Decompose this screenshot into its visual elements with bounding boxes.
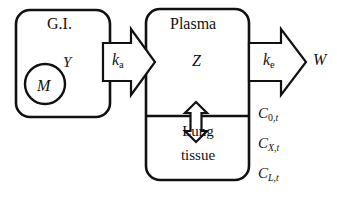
concentration-label-clt: CL,t: [258, 166, 279, 183]
gi-drug-amount-label: M: [37, 78, 50, 94]
lung-tissue-label-line1: Lung: [168, 124, 228, 139]
diagram-canvas: G.I. M Y ka Plasma Z ke W Lung tissue C0…: [0, 0, 337, 198]
c0t-base: C: [258, 105, 268, 121]
cxt-base: C: [258, 135, 268, 151]
concentration-label-c0t: C0,t: [258, 106, 278, 123]
gi-compartment-label: G.I.: [47, 16, 72, 32]
concentration-label-cxt: CX,t: [258, 136, 279, 153]
cxt-sub-second: t: [277, 142, 280, 153]
plasma-amount-label: Z: [192, 53, 201, 69]
plasma-compartment-label: Plasma: [170, 16, 216, 32]
clt-sub-second: t: [276, 172, 279, 183]
c0t-sub-second: t: [275, 112, 278, 123]
absorption-rate-constant-label: ka: [112, 52, 124, 71]
clt-base: C: [258, 165, 268, 181]
absorption-rate-subscript: a: [119, 59, 124, 70]
elimination-rate-subscript: e: [270, 59, 275, 70]
eliminated-amount-label: W: [313, 52, 326, 68]
elimination-rate-constant-label: ke: [263, 52, 275, 71]
elimination-arrow-shape: [249, 29, 306, 95]
lung-tissue-label-line2: tissue: [168, 148, 228, 163]
gi-absorbable-amount-label: Y: [63, 55, 71, 70]
